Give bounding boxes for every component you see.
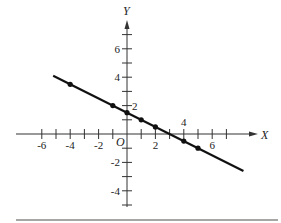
- y-tick-label: 6: [115, 43, 121, 55]
- x-tick-label: 4: [181, 116, 187, 128]
- data-point: [181, 139, 186, 144]
- data-point: [68, 82, 73, 87]
- y-tick-label: -2: [111, 156, 120, 168]
- labels: -6-4-2246642-2-4OXY: [37, 4, 269, 197]
- y-axis-label: Y: [123, 4, 131, 18]
- x-tick-label: 2: [153, 139, 159, 151]
- x-tick-label: 6: [209, 139, 215, 151]
- axes: [16, 20, 258, 207]
- data-point: [124, 110, 129, 115]
- data-point: [153, 124, 158, 129]
- x-tick-label: -2: [94, 139, 103, 151]
- y-tick-label: 4: [115, 71, 121, 83]
- y-axis-arrow-icon: [125, 20, 130, 29]
- data-line: [53, 76, 243, 171]
- data-point: [110, 103, 115, 108]
- y-tick-label: -4: [111, 185, 121, 197]
- line-chart: -6-4-2246642-2-4OXY: [0, 0, 281, 223]
- series-line: [53, 76, 243, 171]
- data-point: [195, 146, 200, 151]
- x-tick-label: -6: [37, 139, 47, 151]
- origin-label: O: [116, 135, 125, 149]
- x-axis-arrow-icon: [249, 132, 258, 137]
- y-tick-label: 2: [132, 100, 138, 112]
- x-axis-label: X: [260, 128, 269, 142]
- x-tick-label: -4: [66, 139, 76, 151]
- data-point: [139, 117, 144, 122]
